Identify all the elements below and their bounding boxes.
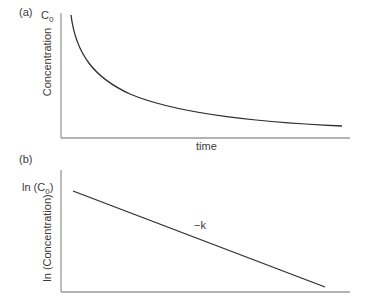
figure-canvas: [0, 0, 372, 297]
panel-b-y-axis-label: ln (Concentration): [41, 184, 53, 292]
panel-a-x-axis-label: time: [196, 140, 217, 152]
panel-b-linear-line: [73, 191, 325, 287]
panel-a-decay-curve: [71, 15, 342, 126]
panel-b-label: (b): [19, 153, 32, 165]
panel-a-label: (a): [19, 6, 32, 18]
panel-b-slope-label: −k: [194, 219, 206, 231]
panel-a-y-axis-label: Concentration: [41, 18, 53, 106]
